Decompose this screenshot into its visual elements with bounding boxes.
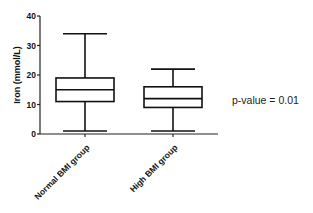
y-tick-label: 20 (27, 70, 36, 80)
y-tick-label: 40 (27, 11, 36, 21)
p-value-annotation: p-value = 0.01 (232, 94, 299, 106)
y-axis-label: Iron (mmol/L) (12, 46, 22, 104)
iqr-box (144, 87, 202, 108)
y-tick-label: 30 (27, 41, 36, 51)
y-tick-label: 0 (31, 129, 36, 139)
box-high-bmi (144, 69, 202, 131)
box-normal-bmi (56, 34, 114, 131)
boxes (56, 34, 202, 131)
y-tick-label: 10 (27, 100, 36, 110)
